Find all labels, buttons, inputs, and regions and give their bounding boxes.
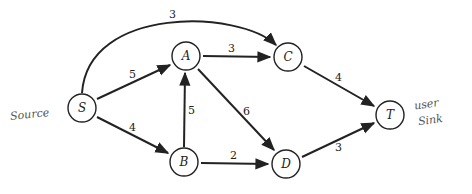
weight-B-D: 2 [230,149,237,162]
edge-A-D [198,69,274,150]
source-annotation: Source [9,106,50,123]
weight-S-A: 5 [129,68,136,81]
svg-text:A: A [181,49,191,63]
svg-text:S: S [78,101,86,115]
weight-B-A: 5 [188,104,195,117]
node-S: S [68,94,96,122]
weight-D-T: 3 [335,141,342,154]
node-A: A [172,42,200,70]
weight-S-B: 4 [129,121,136,134]
edge-A-C [203,56,270,57]
node-D: D [272,150,300,178]
node-T: T [376,101,404,129]
svg-text:D: D [280,157,291,171]
svg-text:T: T [386,108,395,122]
svg-text:B: B [179,155,189,169]
weight-A-C: 3 [228,42,235,55]
weight-A-D: 6 [243,105,250,118]
sink-annotation-line2: Sink [417,112,444,128]
edge-B-A [184,73,185,147]
flow-network-diagram: 3 5 4 5 3 6 2 4 3 S A B C D T Source use… [0,0,472,194]
node-B: B [170,148,198,176]
weight-S-C: 3 [169,8,176,21]
sink-annotation-line1: user [413,96,440,112]
node-C: C [274,43,302,71]
svg-text:C: C [283,50,292,64]
edge-B-D [201,163,268,164]
weight-C-T: 4 [335,71,342,84]
